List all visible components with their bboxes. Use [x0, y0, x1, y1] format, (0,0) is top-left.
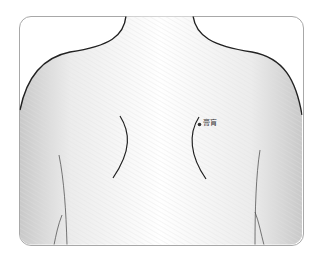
acupoint-marker	[198, 123, 202, 127]
acupoint-label: 膏肓	[203, 119, 217, 128]
upper-back-figure	[0, 0, 321, 261]
